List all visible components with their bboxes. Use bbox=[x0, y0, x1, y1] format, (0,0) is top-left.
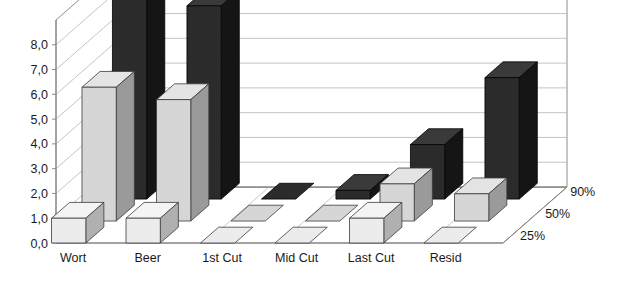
series-label-90pct: 90% bbox=[570, 185, 595, 199]
y-tick-label-8,0: 8,0 bbox=[31, 38, 48, 52]
chart-container: 0,01,02,03,04,05,06,07,08,0 WortBeer1st … bbox=[0, 0, 617, 281]
x-axis-category-labels: WortBeer1st CutMid CutLast CutResid bbox=[60, 251, 462, 265]
x-category-label-mid-cut: Mid Cut bbox=[275, 251, 319, 265]
series-label-50pct: 50% bbox=[545, 207, 570, 221]
bar-beer-50pct-side-face bbox=[191, 84, 209, 221]
bar-mid-cut-90pct-front-face bbox=[336, 190, 370, 199]
y-tick-label-7,0: 7,0 bbox=[31, 63, 48, 77]
y-tick-label-6,0: 6,0 bbox=[31, 88, 48, 102]
bar-wort-25pct-front-face bbox=[52, 218, 86, 243]
series-label-25pct: 25% bbox=[520, 229, 545, 243]
bar-wort-50pct bbox=[82, 71, 134, 221]
bar-chart-3d: 0,01,02,03,04,05,06,07,08,0 WortBeer1st … bbox=[0, 0, 617, 281]
bar-resid-50pct-front-face bbox=[454, 194, 488, 221]
bar-beer-90pct-side-face bbox=[221, 0, 239, 199]
y-tick-label-1,0: 1,0 bbox=[31, 212, 48, 226]
bar-wort-50pct-front-face bbox=[82, 87, 116, 221]
bar-wort-50pct-side-face bbox=[116, 71, 134, 221]
bar-resid-90pct-side-face bbox=[519, 62, 537, 199]
y-tick-label-0,0: 0,0 bbox=[31, 237, 48, 251]
bar-beer-50pct bbox=[156, 84, 208, 221]
y-tick-label-4,0: 4,0 bbox=[31, 137, 48, 151]
y-tick-label-2,0: 2,0 bbox=[31, 187, 48, 201]
y-tick-label-3,0: 3,0 bbox=[31, 162, 48, 176]
x-category-label-resid: Resid bbox=[430, 251, 462, 265]
y-tick-label-5,0: 5,0 bbox=[31, 113, 48, 127]
y-axis-tick-labels: 0,01,02,03,04,05,06,07,08,0 bbox=[31, 38, 48, 250]
bar-beer-25pct-front-face bbox=[126, 218, 160, 243]
x-category-label-wort: Wort bbox=[60, 251, 87, 265]
x-category-label-beer: Beer bbox=[134, 251, 160, 265]
x-category-label-last-cut: Last Cut bbox=[348, 251, 395, 265]
x-category-label-1st-cut: 1st Cut bbox=[202, 251, 242, 265]
bar-last-cut-25pct-front-face bbox=[350, 218, 384, 243]
